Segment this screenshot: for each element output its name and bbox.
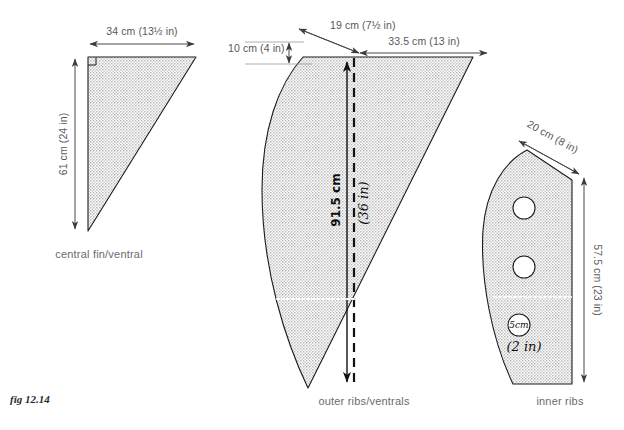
inner-ribs-hole-diameter-in-label: (2 in) — [506, 339, 541, 354]
part-central-fin: 34 cm (13½ in) 61 cm (24 in) central fin… — [55, 25, 196, 260]
central-fin-shape — [88, 57, 196, 231]
outer-ribs-top-bevel-label: 19 cm (7½ in) — [330, 19, 396, 31]
inner-ribs-hole-middle — [513, 256, 535, 278]
central-fin-top-width-label: 34 cm (13½ in) — [106, 25, 177, 37]
outer-ribs-center-height-cm-label: 91.5 cm — [329, 173, 343, 226]
outer-ribs-center-height-in-label: (36 in) — [356, 181, 371, 224]
central-fin-part-label: central fin/ventral — [55, 248, 143, 260]
inner-ribs-right-height-label: 57.5 cm (23 in) — [592, 244, 604, 316]
inner-ribs-top-bevel-label: 20 cm (8 in) — [525, 118, 580, 156]
inner-ribs-hole-top — [513, 197, 535, 219]
outer-ribs-top-width-label: 33.5 cm (13 in) — [388, 35, 460, 47]
outer-ribs-part-label: outer ribs/ventrals — [318, 395, 410, 407]
part-inner-ribs: 20 cm (8 in) 57.5 cm (23 in) 5cm (2 in) … — [483, 118, 604, 407]
part-outer-ribs: 10 cm (4 in) 19 cm (7½ in) 33.5 cm (13 i… — [228, 19, 487, 407]
technical-pattern-diagram: 34 cm (13½ in) 61 cm (24 in) central fin… — [0, 0, 624, 430]
figure-12-14: 34 cm (13½ in) 61 cm (24 in) central fin… — [0, 0, 624, 430]
central-fin-left-height-label: 61 cm (24 in) — [57, 113, 69, 176]
inner-ribs-hole-diameter-cm-label: 5cm — [509, 320, 528, 330]
figure-caption: fig 12.14 — [10, 393, 50, 405]
outer-ribs-nose-height-label: 10 cm (4 in) — [228, 42, 285, 54]
outer-ribs-bevel-dim-line-2 — [299, 29, 359, 53]
inner-ribs-part-label: inner ribs — [536, 395, 584, 407]
